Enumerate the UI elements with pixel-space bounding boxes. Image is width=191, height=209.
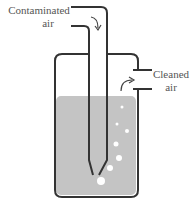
inlet-arrow [91, 17, 98, 28]
bubble [116, 155, 122, 161]
bubble [97, 177, 105, 185]
bubble [121, 106, 124, 109]
liquid [56, 96, 136, 195]
outlet-label: Cleaned air [150, 68, 191, 94]
inlet-label: Contaminated air [8, 4, 70, 30]
bubble [125, 129, 129, 133]
bubble [114, 142, 119, 147]
gas-washing-bottle-diagram [0, 0, 191, 209]
bubble [116, 123, 119, 126]
bubble [107, 165, 113, 171]
